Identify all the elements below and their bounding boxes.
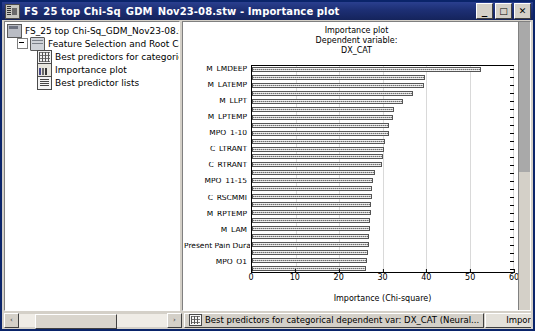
y-axis-label: M_LPTEMP [184, 114, 250, 119]
tab-best-predictors[interactable]: Best predictors for categorical dependen… [184, 313, 484, 328]
tree-item-label: Best predictor lists [55, 78, 139, 88]
tree-item-best-predictor-lists[interactable]: Best predictor lists [7, 76, 179, 89]
tree-item-label: Feature Selection and Root Cause An [48, 39, 179, 49]
y-tick-mark [510, 229, 514, 230]
x-tick-mark [426, 269, 427, 273]
y-tick-mark [510, 157, 514, 158]
y-tick-mark [510, 189, 514, 190]
minimize-button[interactable]: _ [476, 3, 493, 19]
y-tick-mark [510, 117, 514, 118]
y-tick-mark [510, 213, 514, 214]
x-axis-title: Importance (Chi-square) [251, 294, 514, 303]
tree-item-workbook[interactable]: FS_25 top Chi-Sq_GDM_Nov23-08.stw [7, 24, 179, 37]
bar-row [252, 210, 513, 215]
x-tick-label: 20 [334, 273, 344, 282]
plot-vertical-scrollbar[interactable] [518, 22, 530, 310]
bar-row [252, 139, 513, 144]
application-window: FS_25 top Chi-Sq_GDM_Nov23-08.stw - Impo… [0, 0, 535, 331]
close-button[interactable]: ✕ [514, 3, 531, 19]
maximize-button[interactable]: □ [495, 3, 512, 19]
x-tick-mark [339, 269, 340, 273]
bar-row [252, 258, 513, 263]
bar-row [252, 218, 513, 223]
bar-row [252, 115, 513, 120]
y-axis-label: M_LAM [184, 227, 250, 232]
x-tick-label: 0 [248, 273, 253, 282]
y-axis-label: M_LLPT [184, 98, 250, 103]
tree-item-label: Best predictors for categorical dep [55, 52, 179, 62]
y-tick-mark [510, 69, 514, 70]
window-title: FS_25 top Chi-Sq_GDM_Nov23-08.stw - Impo… [24, 6, 472, 17]
bar [252, 250, 368, 255]
y-tick-mark [510, 149, 514, 150]
x-tick-mark [470, 269, 471, 273]
bar-row [252, 194, 513, 199]
y-tick-mark [510, 133, 514, 134]
x-tick-mark [514, 269, 515, 273]
bar-row [252, 107, 513, 112]
bar [252, 139, 385, 144]
bar [252, 162, 382, 167]
bar [252, 202, 371, 207]
bar [252, 170, 375, 175]
y-axis-label: MPQ_Q1 [184, 259, 250, 264]
bar [252, 83, 424, 88]
x-axis-ticks: 0102030405060 [251, 273, 514, 287]
bar [252, 234, 369, 239]
bar [252, 242, 369, 247]
y-tick-mark [510, 101, 514, 102]
tab-importance-plot[interactable]: Importance plot [485, 313, 531, 328]
bar [252, 210, 371, 215]
tree-item-importance-plot[interactable]: Importance plot [7, 63, 179, 76]
scrollbar-thumb[interactable] [519, 22, 530, 172]
bar [252, 258, 367, 263]
scrollbar-track[interactable] [19, 314, 167, 327]
y-axis-label: M_RPTEMP [184, 211, 250, 216]
bar [252, 115, 393, 120]
scroll-left-button[interactable]: ‹ [4, 313, 19, 328]
y-tick-mark [510, 77, 514, 78]
bar [252, 186, 372, 191]
bar-row [252, 91, 513, 96]
bar [252, 107, 394, 112]
scrollbar-thumb[interactable] [35, 314, 117, 329]
folder-icon [30, 37, 45, 51]
plot-subtitle: Dependent variable: [184, 36, 529, 46]
tree-item-best-predictors[interactable]: Best predictors for categorical dep [7, 50, 179, 63]
y-axis-label: C_RSCMMI [184, 195, 250, 200]
y-tick-mark [510, 109, 514, 110]
collapse-expander-icon[interactable] [17, 38, 28, 49]
y-axis-label: M_LMDEEP [184, 66, 250, 71]
bar-row [252, 99, 513, 104]
y-tick-mark [510, 253, 514, 254]
plot-canvas: Importance plot Dependent variable: DX_C… [184, 23, 529, 309]
workbook-tree-pane: FS_25 top Chi-Sq_GDM_Nov23-08.stw Featur… [4, 21, 180, 311]
client-area: FS_25 top Chi-Sq_GDM_Nov23-08.stw Featur… [2, 20, 533, 311]
y-tick-mark [510, 181, 514, 182]
y-tick-mark [510, 165, 514, 166]
tree-item-label: FS_25 top Chi-Sq_GDM_Nov23-08.stw [25, 26, 179, 36]
y-tick-mark [510, 261, 514, 262]
scroll-right-button[interactable]: › [167, 313, 182, 328]
tree-item-feature-selection[interactable]: Feature Selection and Root Cause An [7, 37, 179, 50]
y-axis-label: MPQ_1-10 [184, 130, 250, 135]
y-axis-labels: M_LMDEEPM_LATEMPM_LLPTM_LPTEMPMPQ_1-10C_… [184, 65, 250, 273]
bar [252, 75, 425, 80]
tree-horizontal-scrollbar[interactable]: ‹ › [4, 313, 182, 327]
bar-row [252, 178, 513, 183]
x-tick-mark [383, 269, 384, 273]
tab-label: Importance plot [506, 315, 531, 325]
bar-row [252, 154, 513, 159]
bar-row [252, 131, 513, 136]
workbook-icon [7, 24, 22, 38]
spreadsheet-icon [189, 314, 202, 326]
bar-row [252, 123, 513, 128]
close-icon: ✕ [515, 4, 530, 18]
y-axis-label: C_RTRANT [184, 162, 250, 167]
title-bar: FS_25 top Chi-Sq_GDM_Nov23-08.stw - Impo… [2, 2, 533, 20]
window-controls: _ □ ✕ [476, 3, 531, 19]
y-tick-mark [510, 85, 514, 86]
x-tick-mark [251, 269, 252, 273]
bar [252, 123, 389, 128]
bar [252, 266, 366, 271]
